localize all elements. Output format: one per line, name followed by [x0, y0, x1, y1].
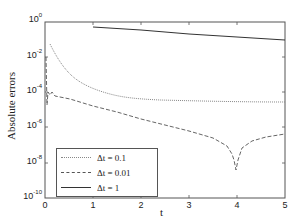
xtick-label: 4	[231, 200, 243, 210]
xtick-label: 5	[279, 200, 291, 210]
dashed-line-swatch	[61, 172, 91, 173]
legend-label: Δt = 0.01	[97, 168, 131, 178]
legend-label: Δt = 0.1	[97, 153, 126, 163]
ytick-label: 10-2	[27, 48, 42, 60]
ytick-label: 100	[29, 12, 42, 24]
ytick-label: 10-6	[27, 118, 42, 130]
legend-item: Δt = 1	[61, 181, 119, 194]
xtick-label: 2	[135, 200, 147, 210]
xtick-label: 0	[39, 200, 51, 210]
legend-label: Δt = 1	[97, 183, 119, 193]
line-chart: 100 10-2 10-4 10-6 10-8 10-10 0 1 2 3 4 …	[0, 0, 295, 223]
dotted-line-swatch	[61, 157, 91, 158]
xtick-label: 1	[87, 200, 99, 210]
x-axis-label: t	[160, 206, 163, 218]
y-axis-label: Absolute errors	[5, 61, 17, 151]
ytick-label: 10-4	[27, 83, 42, 95]
xtick-label: 3	[183, 200, 195, 210]
solid-line-swatch	[61, 187, 91, 188]
legend-item: Δt = 0.01	[61, 166, 131, 179]
series-dt-0.1	[50, 44, 285, 102]
series-dt-1	[93, 27, 285, 40]
legend: Δt = 0.1 Δt = 0.01 Δt = 1	[56, 148, 158, 197]
ytick-label: 10-8	[27, 154, 42, 166]
legend-item: Δt = 0.1	[61, 151, 126, 164]
